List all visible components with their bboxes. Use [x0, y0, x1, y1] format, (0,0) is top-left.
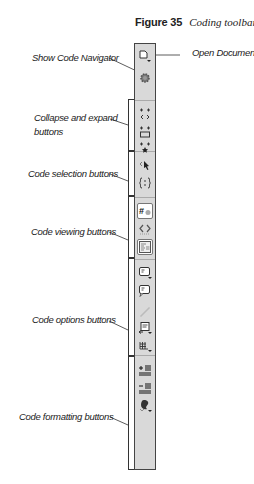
separator — [135, 197, 155, 198]
expand-all-button[interactable] — [137, 140, 153, 156]
separator — [135, 355, 155, 356]
figure-title: Figure 35 Coding toolbar — [135, 16, 254, 28]
comment-remove-icon — [138, 284, 152, 298]
figure-number: Figure 35 — [135, 16, 182, 28]
wrap-tag-button[interactable] — [137, 303, 153, 319]
highlight-invalid-code-button[interactable] — [137, 221, 153, 237]
label-collapse-expand: Collapse and expand buttons — [34, 111, 118, 139]
expand-all-icon — [138, 141, 152, 155]
separator — [135, 100, 155, 101]
label-collapse-expand-line2: buttons — [34, 125, 118, 139]
svg-text:#: # — [139, 206, 144, 216]
indent-icon — [138, 363, 152, 377]
coding-toolbar: # — [134, 43, 156, 470]
line-numbers-icon: # — [138, 204, 152, 218]
format-source-code-button[interactable] — [137, 398, 153, 414]
wrap-tag-icon — [138, 304, 152, 318]
syntax-error-alerts-button[interactable] — [137, 239, 153, 255]
recent-snippets-icon — [138, 321, 152, 335]
select-parent-tag-icon — [138, 158, 152, 172]
label-open-documents: Open Documents — [192, 46, 254, 60]
label-show-code-navigator: Show Code Navigator — [32, 51, 119, 65]
line-numbers-button[interactable]: # — [137, 203, 153, 219]
highlight-invalid-icon — [138, 222, 152, 236]
balance-braces-icon — [138, 176, 152, 190]
indent-code-button[interactable] — [137, 362, 153, 378]
remove-comment-button[interactable] — [137, 283, 153, 299]
label-code-selection: Code selection buttons — [28, 167, 118, 181]
document-dropdown-icon — [138, 49, 152, 63]
select-parent-tag-button[interactable] — [137, 157, 153, 173]
apply-comment-button[interactable] — [137, 265, 153, 281]
recent-snippets-button[interactable] — [137, 320, 153, 336]
format-source-icon — [138, 399, 152, 413]
figure-caption: Coding toolbar — [189, 16, 254, 28]
collapse-selection-icon — [138, 125, 152, 139]
separator — [135, 259, 155, 260]
collapse-tag-icon — [138, 107, 152, 121]
outdent-icon — [138, 381, 152, 395]
move-css-icon — [138, 339, 152, 353]
move-css-button[interactable] — [137, 338, 153, 354]
label-code-options: Code options buttons — [32, 313, 116, 327]
label-code-viewing: Code viewing buttons — [31, 225, 116, 239]
show-code-navigator-button[interactable] — [137, 70, 153, 86]
collapse-selection-button[interactable] — [137, 124, 153, 140]
gear-navigator-icon — [138, 71, 152, 85]
open-documents-button[interactable] — [137, 48, 153, 64]
syntax-alerts-icon — [138, 240, 152, 254]
collapse-full-tag-button[interactable] — [137, 106, 153, 122]
label-collapse-expand-line1: Collapse and expand — [34, 111, 118, 125]
balance-braces-button[interactable] — [137, 175, 153, 191]
label-code-formatting: Code formatting buttons — [19, 410, 114, 424]
comment-apply-icon — [138, 266, 152, 280]
outdent-code-button[interactable] — [137, 380, 153, 396]
